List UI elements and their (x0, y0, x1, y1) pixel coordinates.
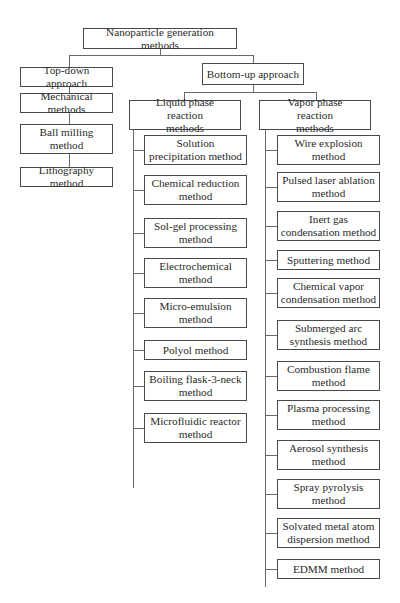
connector (69, 55, 253, 56)
connector (133, 150, 144, 151)
connector (133, 428, 144, 429)
vapor-method-node: Combustion flame method (277, 361, 380, 391)
vapor-phase-node: Vapor phase reaction methods (259, 100, 371, 130)
connector (133, 273, 144, 274)
vapor-method-node: EDMM method (277, 559, 380, 579)
liquid-method-node: Polyol method (144, 340, 247, 360)
connector (265, 150, 277, 151)
connector (133, 350, 144, 351)
connector (253, 55, 254, 63)
vapor-method-node: Wire explosion method (277, 135, 380, 165)
liquid-method-node: Electrochemical method (144, 258, 247, 288)
connector (133, 233, 144, 234)
vapor-method-node: Chemical vapor condensation method (277, 278, 380, 308)
bottom-up-node: Bottom-up approach (202, 63, 304, 85)
root-node: Nanoparticle generation methods (83, 28, 237, 49)
lithography-node: Lithography method (20, 167, 113, 187)
vapor-method-node: Solvated metal atom dispersion method (277, 518, 380, 548)
connector (265, 415, 277, 416)
connector (265, 455, 277, 456)
vapor-method-node: Spray pyrolysis method (277, 479, 380, 509)
liquid-method-node: Sol-gel processing method (144, 218, 247, 248)
vapor-method-node: Submerged arc synthesis method (277, 320, 380, 350)
connector (265, 533, 277, 534)
connector (265, 376, 277, 377)
vapor-method-node: Sputtering method (277, 250, 380, 270)
ball-milling-node: Ball milling method (20, 124, 113, 154)
liquid-method-node: Solution precipitation method (144, 135, 247, 165)
liquid-method-node: Boiling flask-3-neck method (144, 371, 247, 401)
connector (265, 569, 277, 570)
vapor-method-node: Inert gas condensation method (277, 211, 380, 241)
connector (265, 226, 277, 227)
connector (265, 293, 277, 294)
mechanical-node: Mechanical methods (20, 93, 113, 113)
connector (133, 313, 144, 314)
connector (184, 92, 316, 93)
vapor-method-node: Pulsed laser ablation method (277, 172, 380, 202)
vapor-method-node: Aerosol synthesis method (277, 440, 380, 470)
vapor-method-node: Plasma processing method (277, 400, 380, 430)
connector (265, 260, 277, 261)
connector (133, 190, 144, 191)
liquid-method-node: Chemical reduction method (144, 175, 247, 205)
liquid-method-node: Microfluidic reactor method (144, 413, 247, 443)
connector (133, 386, 144, 387)
connector (265, 335, 277, 336)
liquid-phase-node: Liquid phase reaction methods (129, 100, 241, 130)
connector (265, 187, 277, 188)
liquid-method-node: Micro-emulsion method (144, 298, 247, 328)
top-down-node: Top-down approach (20, 67, 113, 87)
connector (133, 130, 134, 488)
connector (265, 130, 266, 587)
connector (265, 494, 277, 495)
connector (253, 85, 254, 92)
